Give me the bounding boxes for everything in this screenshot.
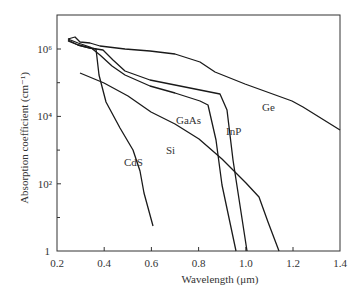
y-axis [57, 49, 61, 218]
absorption-chart: 0.2 0.4 0.6 0.8 1.0 1.2 1.4 Wavelength (… [0, 0, 361, 294]
x-axis-label: Wavelength (μm) [182, 273, 259, 286]
y-tick-label: 10² [38, 178, 53, 190]
y-tick-label: 1 [45, 245, 51, 257]
x-tick-label: 0.8 [192, 257, 206, 269]
y-tick-label: 10⁶ [37, 43, 52, 55]
label-cds: CdS [124, 156, 143, 168]
x-tick-label: 0.6 [145, 257, 159, 269]
label-inp: InP [226, 125, 241, 137]
x-tick-label: 1.4 [333, 257, 347, 269]
series-ge [68, 37, 340, 130]
label-gaas: GaAs [176, 114, 201, 126]
series-si [80, 73, 279, 251]
x-tick-label: 0.4 [97, 257, 111, 269]
x-tick-label: 1.2 [286, 257, 300, 269]
x-tick-labels: 0.2 0.4 0.6 0.8 1.0 1.2 1.4 [50, 257, 347, 269]
y-tick-label: 10⁴ [37, 110, 52, 122]
label-si: Si [166, 144, 175, 156]
plot-frame [57, 15, 340, 251]
label-ge: Ge [262, 101, 275, 113]
series-inp [68, 40, 247, 251]
x-axis [104, 247, 293, 251]
y-axis-label: Absorption coefficient (cm⁻¹) [18, 72, 31, 204]
y-tick-labels: 1 10² 10⁴ 10⁶ [37, 43, 53, 257]
series-gaas [68, 39, 236, 251]
x-tick-label: 0.2 [50, 257, 64, 269]
x-tick-label: 1.0 [239, 257, 253, 269]
series-cds [68, 41, 153, 226]
